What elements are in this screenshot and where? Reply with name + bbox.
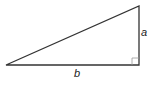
- right-triangle-diagram: a b: [0, 0, 155, 86]
- side-b-label: b: [74, 68, 80, 79]
- right-angle-marker: [132, 58, 139, 65]
- side-a-label: a: [141, 27, 147, 38]
- triangle-outline: [6, 6, 139, 65]
